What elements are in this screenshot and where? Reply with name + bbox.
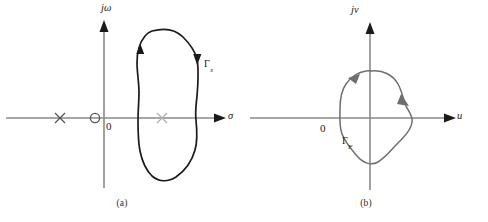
origin-label-b: 0 bbox=[320, 122, 326, 134]
gamma-s-arrow-down bbox=[193, 54, 201, 65]
gamma-s-contour bbox=[137, 29, 198, 180]
panel-a-caption: (a) bbox=[0, 198, 244, 208]
jv-axis-arrowhead bbox=[366, 22, 375, 34]
panel-a-s-plane: jω σ 0 Γs (a) bbox=[0, 0, 244, 222]
u-axis bbox=[250, 114, 456, 123]
gamma-f-subscript: F bbox=[348, 143, 352, 151]
jomega-axis-arrowhead bbox=[100, 20, 109, 32]
origin-label-a: 0 bbox=[106, 120, 112, 132]
sigma-axis-label: σ bbox=[228, 110, 233, 121]
u-axis-label: u bbox=[457, 110, 462, 121]
jomega-axis-label: jω bbox=[101, 2, 111, 13]
gamma-f-symbol: Γ bbox=[342, 135, 348, 146]
gamma-f-label: ΓF bbox=[342, 135, 352, 149]
panel-b-caption: (b) bbox=[244, 198, 488, 208]
panel-b-f-plane: jv u 0 ΓF (b) bbox=[244, 0, 488, 222]
gamma-s-symbol: Γ bbox=[204, 58, 210, 69]
panel-b-plot bbox=[244, 0, 488, 222]
u-axis-arrowhead bbox=[444, 114, 456, 123]
figure-root: jω σ 0 Γs (a) jv u 0 bbox=[0, 0, 488, 222]
jv-axis bbox=[366, 22, 375, 190]
jomega-axis bbox=[100, 20, 109, 188]
sigma-axis bbox=[6, 114, 226, 123]
jv-axis-label: jv bbox=[351, 4, 359, 15]
gamma-s-arrow-up bbox=[136, 44, 144, 54]
gamma-s-subscript: s bbox=[210, 66, 213, 74]
panel-a-plot bbox=[0, 0, 244, 222]
sigma-axis-arrowhead bbox=[214, 114, 226, 123]
gamma-s-label: Γs bbox=[204, 58, 213, 72]
